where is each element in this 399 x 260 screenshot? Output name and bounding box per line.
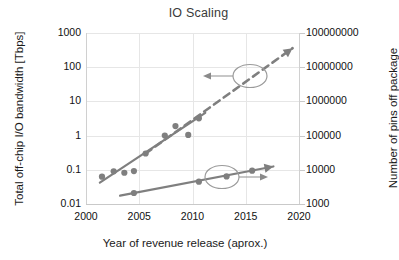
data-point	[99, 174, 105, 180]
y-axis-right-tickmark	[300, 33, 305, 34]
data-point	[185, 132, 191, 138]
data-point	[196, 179, 202, 185]
data-point	[249, 168, 255, 174]
data-point	[223, 173, 229, 179]
right-axis-callout-arrow-icon	[260, 174, 268, 181]
data-point	[111, 168, 117, 174]
data-point	[121, 170, 127, 176]
data-point	[172, 123, 178, 129]
left-axis-callout-ellipse	[233, 65, 267, 88]
trendline-bandwidth	[146, 48, 293, 153]
y-axis-right-tickmark	[300, 67, 305, 68]
y-axis-right-tickmark	[300, 101, 305, 102]
data-point	[131, 168, 137, 174]
y-axis-right-tickmark	[300, 204, 305, 205]
trendline-arrowhead	[264, 164, 274, 173]
data-point	[131, 190, 137, 196]
y-axis-right-tickmark	[300, 170, 305, 171]
y-axis-right-tickmark	[300, 136, 305, 137]
left-axis-callout-arrow-icon	[203, 73, 211, 80]
